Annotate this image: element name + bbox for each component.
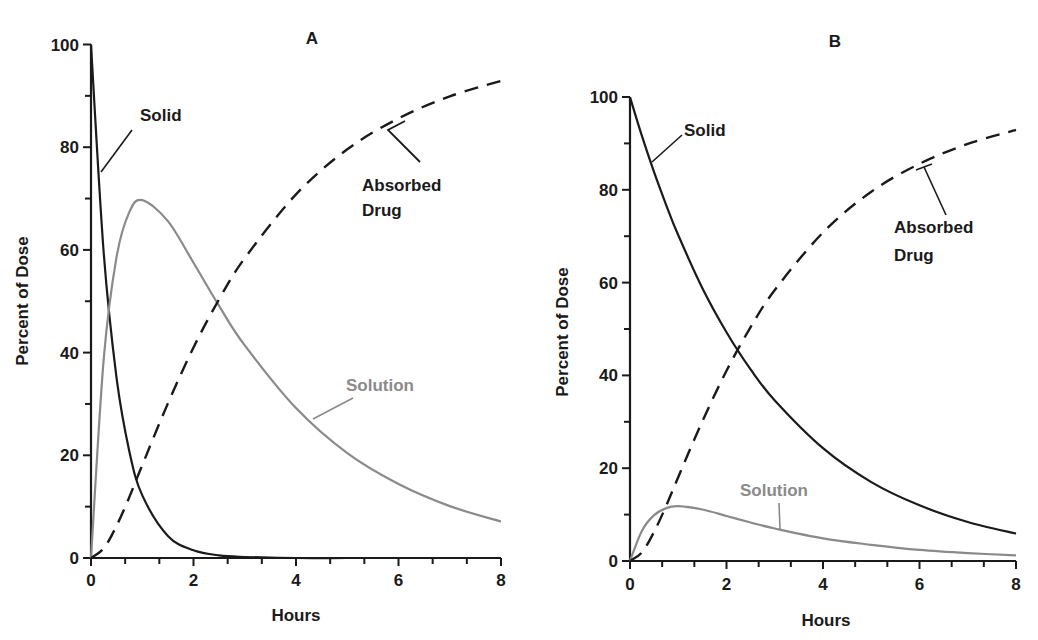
absorbed-drug-curve bbox=[630, 130, 1016, 561]
chart-panel-a: A 02040608010002468 Hours Percent of Dos… bbox=[13, 29, 506, 625]
curves-b bbox=[630, 97, 1016, 561]
solution-leader-line-a bbox=[313, 398, 353, 419]
chart-panel-b: B 02040608010002468 Hours Percent of Dos… bbox=[553, 32, 1021, 630]
absorbed-leader-line-b bbox=[924, 167, 946, 215]
figure: A 02040608010002468 Hours Percent of Dos… bbox=[0, 0, 1038, 640]
y-tick-label: 100 bbox=[590, 88, 618, 107]
y-tick-label: 80 bbox=[599, 181, 618, 200]
x-tick-label: 4 bbox=[818, 575, 828, 594]
panel-title-b: B bbox=[829, 32, 841, 51]
y-tick-label: 40 bbox=[599, 366, 618, 385]
absorbed-drug-curve bbox=[91, 81, 501, 558]
x-tick-label: 2 bbox=[722, 575, 731, 594]
solid-leader-line-a bbox=[101, 130, 132, 172]
y-tick-label: 0 bbox=[609, 552, 618, 571]
absorbed-label-a-line1: Absorbed bbox=[362, 176, 441, 195]
axes-a: 02040608010002468 bbox=[51, 36, 506, 591]
y-tick-label: 20 bbox=[60, 446, 79, 465]
absorbed-leader-cap-b bbox=[916, 164, 932, 170]
solution-curve bbox=[91, 200, 501, 558]
panel-title-a: A bbox=[306, 29, 318, 48]
absorbed-label-a-line2: Drug bbox=[362, 201, 402, 220]
solid-leader-line-b bbox=[652, 135, 682, 162]
x-tick-label: 0 bbox=[625, 575, 634, 594]
solid-curve bbox=[630, 97, 1016, 534]
x-tick-label: 8 bbox=[496, 571, 505, 590]
solution-label-b: Solution bbox=[740, 481, 808, 500]
solution-label-a: Solution bbox=[346, 376, 414, 395]
y-axis-title-b: Percent of Dose bbox=[553, 267, 572, 396]
y-tick-label: 0 bbox=[70, 549, 79, 568]
absorbed-label-b-line2: Drug bbox=[894, 246, 934, 265]
x-tick-label: 2 bbox=[189, 571, 198, 590]
x-tick-label: 6 bbox=[915, 575, 924, 594]
x-tick-label: 4 bbox=[291, 571, 301, 590]
absorbed-label-b-line1: Absorbed bbox=[894, 218, 973, 237]
y-tick-label: 60 bbox=[60, 241, 79, 260]
y-tick-label: 40 bbox=[60, 344, 79, 363]
y-tick-label: 60 bbox=[599, 274, 618, 293]
absorbed-leader-line-a bbox=[388, 121, 420, 162]
solid-label-b: Solid bbox=[684, 121, 726, 140]
solution-curve bbox=[630, 506, 1016, 561]
x-tick-label: 6 bbox=[394, 571, 403, 590]
y-tick-label: 80 bbox=[60, 138, 79, 157]
y-tick-label: 100 bbox=[51, 36, 79, 55]
x-axis-title-b: Hours bbox=[801, 611, 850, 630]
x-tick-label: 0 bbox=[86, 571, 95, 590]
y-axis-title-a: Percent of Dose bbox=[13, 236, 32, 365]
x-tick-label: 8 bbox=[1011, 575, 1020, 594]
solution-leader-line-b bbox=[779, 503, 780, 529]
solid-label-a: Solid bbox=[140, 106, 182, 125]
x-axis-title-a: Hours bbox=[271, 606, 320, 625]
y-tick-label: 20 bbox=[599, 459, 618, 478]
